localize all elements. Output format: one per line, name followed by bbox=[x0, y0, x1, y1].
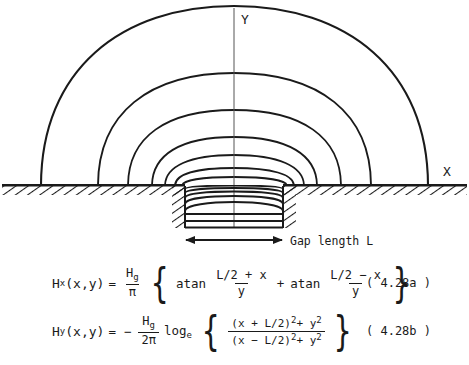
gap-wall-right bbox=[283, 186, 296, 228]
equation-b-equals: = bbox=[108, 324, 116, 339]
equation-a-equals: = bbox=[108, 276, 116, 291]
equation-a-term2-denominator: y bbox=[349, 283, 362, 298]
gap-wall-left bbox=[172, 186, 185, 228]
equation-a-term1-numerator: L/2 + x bbox=[213, 269, 270, 283]
pole-piece-left bbox=[2, 185, 185, 195]
equation-b-number: ( 4.28b ) bbox=[366, 324, 431, 338]
equation-4-28b: Hy(x,y) = − Hg 2π loge { (x + L/2)2+ y2 … bbox=[0, 307, 469, 355]
x-axis-label: X bbox=[443, 164, 451, 179]
equation-a-lhs: Hx(x,y) bbox=[52, 276, 104, 291]
equation-block: Hx(x,y) = Hg π { atan L/2 + x y + atan L… bbox=[0, 255, 469, 365]
equation-b-log: loge bbox=[164, 323, 192, 340]
equation-a-fn1: atan bbox=[176, 276, 206, 291]
gap-length-label: Gap length L bbox=[290, 234, 373, 248]
equation-b-ratio: (x + L/2)2+ y2 (x − L/2)2+ y2 bbox=[228, 316, 324, 346]
equation-b-ratio-denominator: (x − L/2)2+ y2 bbox=[228, 331, 324, 347]
equation-a-fn2: atan bbox=[290, 276, 320, 291]
y-axis-label: Y bbox=[241, 12, 249, 27]
equation-a-coef-denominator: π bbox=[126, 284, 139, 299]
equation-4-28a: Hx(x,y) = Hg π { atan L/2 + x y + atan L… bbox=[0, 259, 469, 307]
gap-dimension-arrow bbox=[185, 236, 283, 244]
equation-b-lhs-args: (x,y) bbox=[65, 324, 104, 339]
equation-a-term1-denominator: y bbox=[235, 283, 248, 298]
equation-b-coef-numerator: Hg bbox=[139, 315, 158, 331]
pole-piece-right bbox=[283, 185, 467, 195]
equation-a-number: ( 4.28a ) bbox=[366, 276, 431, 290]
equation-b-ratio-numerator: (x + L/2)2+ y2 bbox=[228, 316, 324, 331]
equation-a-coef-numerator: Hg bbox=[123, 267, 142, 283]
equation-a-plus: + bbox=[277, 276, 285, 291]
equation-a-lhs-args: (x,y) bbox=[65, 276, 104, 291]
equation-b-lhs: Hy(x,y) bbox=[52, 324, 104, 339]
equation-a-term1: L/2 + x y bbox=[213, 269, 270, 297]
equation-a-lhs-symbol: H bbox=[52, 276, 60, 291]
equation-b-coefficient: Hg 2π bbox=[138, 315, 158, 346]
equation-b-lhs-symbol: H bbox=[52, 324, 60, 339]
equation-b-coef-denominator: 2π bbox=[138, 332, 158, 347]
equation-b-minus: − bbox=[124, 324, 132, 339]
equation-a-coefficient: Hg π bbox=[123, 267, 142, 298]
